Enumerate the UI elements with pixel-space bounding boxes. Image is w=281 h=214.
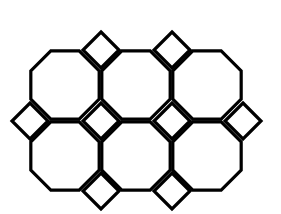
octagon-r0-c0: [31, 51, 99, 119]
tiling-figure: Truncated square tiling pattern: [0, 0, 281, 214]
octagon-r1-c0: [31, 122, 99, 190]
octagon-layer: [31, 51, 241, 190]
tiling-canvas: Truncated square tiling pattern: [0, 0, 281, 214]
octagon-r1-c1: [102, 122, 170, 190]
octagon-r0-c1: [102, 51, 170, 119]
octagon-r1-c2: [173, 122, 241, 190]
octagon-r0-c2: [173, 51, 241, 119]
